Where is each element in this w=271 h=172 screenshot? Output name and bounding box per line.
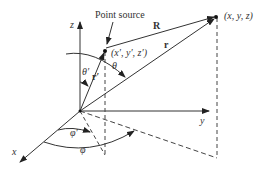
phi-arc (44, 131, 134, 148)
r-label: r (164, 39, 169, 50)
r-vector (80, 19, 214, 111)
point-source-pointer (107, 22, 113, 44)
phi-prime-label: φ′ (70, 127, 79, 138)
diagram-canvas: Point source R r r′ (x, y, z) (x′, y′, z… (0, 0, 271, 172)
r-prime-label: r′ (92, 71, 99, 82)
coordinate-diagram: Point source R r r′ (x, y, z) (x′, y′, z… (0, 0, 271, 172)
field-xy-line (80, 111, 217, 158)
R-label: R (153, 20, 161, 31)
point-source-label: Point source (95, 9, 145, 20)
origin-point (79, 110, 82, 113)
z-label: z (69, 19, 74, 30)
theta-prime-label: θ′ (82, 66, 90, 77)
field-point-label: (x, y, z) (224, 10, 254, 22)
theta-prime-arc (80, 82, 88, 86)
source-point-label: (x′, y′, z′) (111, 47, 148, 59)
field-point (214, 15, 218, 19)
y-label: y (199, 115, 205, 126)
phi-label: φ (80, 144, 86, 155)
x-label: x (11, 146, 17, 157)
theta-label: θ (112, 60, 117, 71)
source-point (103, 49, 107, 53)
